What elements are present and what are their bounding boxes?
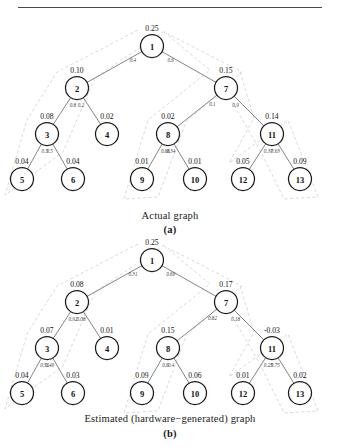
graph-node-value-label: 0.25 — [145, 238, 158, 247]
edge-weight-label: 0.75 — [271, 362, 280, 368]
graph-node-id-label: 9 — [140, 389, 144, 399]
graph-edge — [83, 312, 100, 339]
graph-node-id-label: 13 — [296, 389, 305, 399]
edge-weight-label: 0.18 — [231, 316, 240, 322]
edge-layer: 0.40.60.80.20.50.50.10.90.660.340.370.63 — [28, 52, 294, 170]
graph-edge — [177, 95, 217, 127]
graph-node-id-label: 10 — [191, 389, 200, 399]
graph-node-id-label: 2 — [75, 298, 79, 308]
graph-node-id-label: 12 — [239, 175, 248, 185]
graph-node-value-label: 0.25 — [145, 24, 158, 33]
graph-panel-actual: 0.40.60.80.20.50.50.10.90.660.340.370.63… — [0, 16, 340, 212]
graph-node-value-label: 0.07 — [40, 326, 53, 335]
edge-weight-label: 0.63 — [271, 148, 280, 154]
graph-node-value-label: 0.08 — [40, 112, 53, 121]
caption-title-a: Actual graph — [0, 210, 340, 221]
figure-page: 0.40.60.80.20.50.50.10.90.660.340.370.63… — [0, 0, 340, 448]
edge-weight-label: 0.9 — [232, 102, 239, 108]
edge-weight-label: 0.1 — [209, 101, 215, 107]
graph-node-value-label: 0.15 — [219, 66, 232, 75]
graph-node-value-label: 0.01 — [236, 371, 249, 380]
edge-weight-label: 0.34 — [167, 148, 176, 154]
graph-node-id-label: 13 — [296, 175, 305, 185]
graph-edge — [148, 358, 162, 383]
graph-edge — [87, 52, 142, 83]
edge-weight-label: 0.4 — [168, 362, 175, 368]
graph-node-value-label: 0.01 — [100, 326, 113, 335]
graph-node-id-label: 11 — [268, 344, 276, 354]
graph-edge — [83, 98, 100, 125]
graph-node-id-label: 1 — [150, 42, 154, 52]
graph-edge — [162, 266, 216, 297]
edge-weight-label: 0.31 — [129, 271, 138, 277]
graph-node-value-label: 0.05 — [236, 157, 249, 166]
graph-node-value-label: 0.02 — [100, 112, 113, 121]
graph-node-id-label: 3 — [45, 130, 49, 140]
edge-weight-label: 0.2 — [78, 102, 85, 108]
graph-panel-estimated: 0.310.690.920.080.510.490.820.180.60.40.… — [0, 238, 340, 414]
graph-edge — [162, 52, 216, 83]
graph-node-id-label: 5 — [20, 389, 24, 399]
edge-weight-label: 0.8 — [70, 102, 77, 108]
graph-edge — [87, 266, 142, 297]
graph-node-id-label: 8 — [166, 344, 170, 354]
graph-node-value-label: 0.06 — [188, 371, 201, 380]
edge-weight-label: 0.5 — [46, 148, 53, 154]
graph-edge — [53, 98, 70, 125]
graph-node-value-label: 0.17 — [219, 280, 232, 289]
graph-node-id-label: 8 — [166, 130, 170, 140]
graph-node-value-label: 0.02 — [161, 112, 174, 121]
caption-label-a: (a) — [0, 224, 340, 235]
graph-node-id-label: 9 — [140, 175, 144, 185]
graph-node-value-label: 0.10 — [70, 66, 83, 75]
node-layer: 10.2520.1030.0840.0250.0460.0470.1580.02… — [11, 24, 312, 191]
graph-edge — [174, 144, 189, 169]
top-divider-rule — [18, 7, 322, 8]
estimated-graph-svg: 0.310.690.920.080.510.490.820.180.60.40.… — [0, 238, 340, 414]
graph-node-value-label: 0.04 — [66, 157, 79, 166]
edge-weight-label: 0.08 — [77, 316, 86, 322]
edge-weight-label: 0.6 — [168, 57, 175, 63]
edge-layer: 0.310.690.920.080.510.490.820.180.60.40.… — [28, 266, 294, 384]
graph-edge — [278, 358, 294, 383]
node-layer: 10.2520.0830.0740.0150.0460.0370.1780.15… — [11, 238, 312, 405]
graph-node-id-label: 6 — [71, 389, 75, 399]
graph-edge — [28, 144, 42, 169]
graph-edge — [174, 358, 189, 383]
graph-node-id-label: 11 — [268, 130, 276, 140]
graph-node-value-label: 0.09 — [135, 371, 148, 380]
graph-node-value-label: 0.01 — [135, 157, 148, 166]
graph-node-id-label: 3 — [45, 344, 49, 354]
edge-weight-label: 0.4 — [130, 57, 137, 63]
graph-edge — [177, 309, 217, 341]
graph-node-id-label: 10 — [191, 175, 200, 185]
caption-label-b: (b) — [0, 428, 340, 439]
graph-node-value-label: 0.03 — [66, 371, 79, 380]
graph-node-value-label: 0.09 — [293, 157, 306, 166]
graph-node-value-label: 0.15 — [161, 326, 174, 335]
graph-node-value-label: -0.03 — [264, 326, 280, 335]
graph-node-id-label: 5 — [20, 175, 24, 185]
actual-graph-svg: 0.40.60.80.20.50.50.10.90.660.340.370.63… — [0, 16, 340, 212]
graph-node-value-label: 0.01 — [188, 157, 201, 166]
graph-node-id-label: 2 — [75, 84, 79, 94]
graph-node-value-label: 0.14 — [265, 112, 278, 121]
graph-edge — [278, 144, 294, 169]
edge-weight-label: 0.69 — [166, 271, 175, 277]
edge-weight-label: 0.49 — [45, 362, 54, 368]
graph-node-value-label: 0.04 — [15, 157, 28, 166]
graph-node-value-label: 0.08 — [70, 280, 83, 289]
graph-node-value-label: 0.02 — [293, 371, 306, 380]
graph-node-id-label: 6 — [71, 175, 75, 185]
graph-node-id-label: 1 — [150, 256, 154, 266]
graph-node-id-label: 12 — [239, 389, 248, 399]
edge-weight-label: 0.82 — [208, 315, 217, 321]
caption-title-b: Estimated (hardware−generated) graph — [0, 413, 340, 424]
graph-node-value-label: 0.04 — [15, 371, 28, 380]
